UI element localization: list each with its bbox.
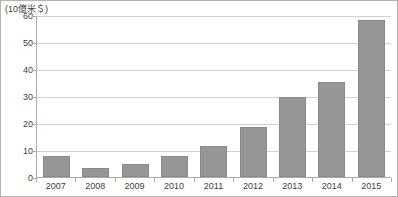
bars-layer <box>37 16 391 177</box>
x-axis-tick-labels: 2007 2008 2009 2010 2011 2012 2013 2014 … <box>36 181 391 191</box>
x-tick-label-2015: 2015 <box>352 181 391 191</box>
bar-slot-2007 <box>37 16 76 177</box>
x-tick-label-2011: 2011 <box>194 181 233 191</box>
bar-slot-2012 <box>234 16 273 177</box>
y-tick-label-30: 30 <box>1 92 33 102</box>
bar-2011[interactable] <box>200 146 227 177</box>
bar-2008[interactable] <box>82 168 109 177</box>
bar-2014[interactable] <box>318 82 345 177</box>
bar-slot-2011 <box>194 16 233 177</box>
bar-2009[interactable] <box>122 164 149 177</box>
plot-area <box>36 16 391 178</box>
bar-slot-2010 <box>155 16 194 177</box>
bar-2010[interactable] <box>161 156 188 177</box>
bar-slot-2009 <box>116 16 155 177</box>
y-tick-label-20: 20 <box>1 119 33 129</box>
x-tick-label-2012: 2012 <box>233 181 272 191</box>
x-tick-label-2009: 2009 <box>115 181 154 191</box>
y-tick-label-40: 40 <box>1 65 33 75</box>
bar-2007[interactable] <box>43 156 70 177</box>
bar-2012[interactable] <box>240 127 267 177</box>
y-tick-label-50: 50 <box>1 38 33 48</box>
x-tick-label-2013: 2013 <box>273 181 312 191</box>
bar-2015[interactable] <box>358 20 385 177</box>
x-tick-label-2008: 2008 <box>75 181 114 191</box>
x-tick-label-2010: 2010 <box>154 181 193 191</box>
bar-slot-2014 <box>312 16 351 177</box>
y-tick-label-0: 0 <box>1 173 33 183</box>
y-axis-tick-labels: 60 50 40 30 20 10 0 <box>1 1 33 197</box>
y-tick-label-60: 60 <box>1 11 33 21</box>
bar-slot-2015 <box>352 16 391 177</box>
bar-slot-2013 <box>273 16 312 177</box>
bar-2013[interactable] <box>279 97 306 178</box>
x-tick-mark-9 <box>391 178 392 182</box>
y-tick-label-10: 10 <box>1 146 33 156</box>
bar-chart-figure: (10億米＄) 60 50 40 30 20 10 0 <box>0 0 398 197</box>
x-tick-label-2007: 2007 <box>36 181 75 191</box>
x-tick-label-2014: 2014 <box>312 181 351 191</box>
bar-slot-2008 <box>76 16 115 177</box>
